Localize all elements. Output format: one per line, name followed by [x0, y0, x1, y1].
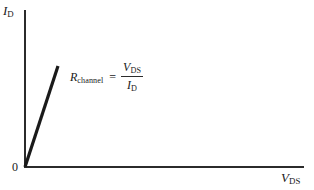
equation-fraction: VDS ID: [121, 61, 143, 94]
fraction-numerator: VDS: [121, 61, 143, 76]
fraction-denominator: ID: [125, 77, 139, 93]
y-axis-label: ID: [3, 4, 14, 19]
x-axis-label-symbol: V: [281, 170, 289, 185]
y-axis-label-subscript: D: [7, 9, 13, 19]
equation-lhs: Rchannel: [70, 70, 103, 85]
curve-layer: [0, 0, 314, 190]
equation-lhs-subscript: channel: [77, 76, 103, 85]
x-axis-label-subscript: DS: [289, 176, 300, 186]
iv-characteristic-figure: ID VDS 0 Rchannel = VDS ID: [0, 0, 314, 190]
x-axis-line: [24, 166, 304, 168]
x-axis-label: VDS: [281, 171, 300, 186]
y-axis-line: [24, 10, 26, 168]
equals-sign: =: [109, 70, 116, 85]
origin-label: 0: [12, 161, 18, 173]
fraction-numerator-subscript: DS: [130, 66, 141, 75]
fraction-denominator-subscript: D: [131, 85, 137, 94]
channel-resistance-equation: Rchannel = VDS ID: [70, 61, 143, 94]
ohmic-region-line: [25, 66, 58, 167]
